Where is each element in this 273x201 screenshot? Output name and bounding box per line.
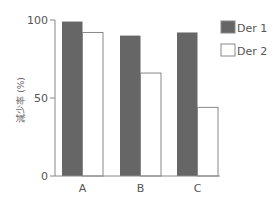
- bar-chart: ABC050100 Der 1Der 2 減少率 (%): [0, 0, 273, 201]
- legend-swatch: [221, 21, 235, 33]
- legend: Der 1Der 2: [221, 21, 267, 58]
- bars-group: [62, 22, 218, 176]
- x-tick-label: A: [79, 182, 87, 195]
- y-tick-label: 100: [27, 14, 48, 27]
- bar-a-der-1: [62, 22, 83, 176]
- y-tick-label: 0: [41, 170, 48, 183]
- bar-b-der-1: [120, 36, 141, 176]
- legend-swatch: [221, 44, 235, 56]
- bar-c-der-2: [198, 107, 219, 176]
- legend-label: Der 2: [237, 45, 267, 58]
- bar-c-der-1: [177, 32, 198, 176]
- y-tick-label: 50: [34, 92, 48, 105]
- x-tick-label: C: [194, 182, 202, 195]
- y-axis-label: 減少率 (%): [15, 77, 26, 122]
- bar-b-der-2: [141, 73, 162, 176]
- x-tick-label: B: [137, 182, 145, 195]
- legend-label: Der 1: [237, 22, 267, 35]
- bar-a-der-2: [83, 32, 104, 176]
